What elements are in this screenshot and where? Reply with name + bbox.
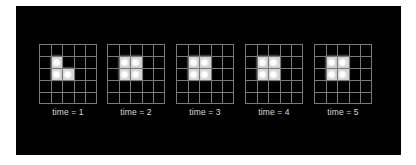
cell-grid [245, 44, 303, 104]
grid-line [245, 92, 303, 93]
time-label: time = 4 [235, 107, 313, 117]
live-cell [199, 68, 211, 80]
grid-line [164, 44, 165, 104]
grid-line [107, 68, 165, 69]
grid-line [280, 44, 281, 104]
live-cell [257, 56, 269, 68]
grid-line [291, 44, 292, 104]
time-label: time = 5 [304, 107, 382, 117]
cell-dot-icon [65, 72, 70, 77]
cell-dot-icon [202, 60, 207, 65]
figure-frame: time = 1 time = 2 time = 3 time = 4 time… [16, 6, 401, 155]
cell-dot-icon [340, 72, 345, 77]
cell-grid [39, 44, 97, 104]
grid-line [233, 44, 234, 104]
live-cell [51, 68, 63, 80]
live-cell [268, 68, 280, 80]
cell-dot-icon [260, 60, 265, 65]
grid-line [245, 56, 303, 57]
cell-dot-icon [133, 60, 138, 65]
grid-line [314, 68, 372, 69]
cell-dot-icon [260, 72, 265, 77]
grid-line [119, 44, 120, 104]
live-cell [119, 56, 131, 68]
grid-line [245, 103, 303, 104]
grid-line [360, 44, 361, 104]
cell-dot-icon [271, 60, 276, 65]
grid-line [176, 92, 234, 93]
cell-dot-icon [202, 72, 207, 77]
panel-time-3: time = 3 [176, 44, 234, 104]
grid-line [107, 44, 165, 45]
grid-line [51, 44, 52, 104]
cell-dot-icon [340, 60, 345, 65]
grid-line [39, 80, 97, 81]
grid-line [314, 103, 372, 104]
cell-dot-icon [329, 60, 334, 65]
panel-time-4: time = 4 [245, 44, 303, 104]
live-cell [119, 68, 131, 80]
grid-line [349, 44, 350, 104]
cell-dot-icon [54, 72, 59, 77]
grid-line [245, 44, 246, 104]
grid-line [176, 68, 234, 69]
grid-line [39, 103, 97, 104]
grid-line [39, 56, 97, 57]
grid-line [314, 80, 372, 81]
live-cell [326, 56, 338, 68]
cell-dot-icon [122, 60, 127, 65]
cell-dot-icon [271, 72, 276, 77]
grid-line [199, 44, 200, 104]
cell-grid [107, 44, 165, 104]
grid-line [176, 44, 234, 45]
grid-line [314, 44, 372, 45]
live-cell [199, 56, 211, 68]
cell-dot-icon [54, 60, 59, 65]
grid-line [211, 44, 212, 104]
grid-line [257, 44, 258, 104]
grid-line [107, 56, 165, 57]
grid-line [222, 44, 223, 104]
live-cell [326, 68, 338, 80]
live-cell [268, 56, 280, 68]
time-label: time = 3 [166, 107, 244, 117]
grid-line [176, 56, 234, 57]
grid-line [245, 80, 303, 81]
panel-time-2: time = 2 [107, 44, 165, 104]
live-cell [130, 68, 142, 80]
grid-line [130, 44, 131, 104]
grid-line [107, 80, 165, 81]
grid-line [107, 92, 165, 93]
live-cell [51, 56, 63, 68]
cell-dot-icon [329, 72, 334, 77]
grid-line [188, 44, 189, 104]
grid-line [302, 44, 303, 104]
grid-line [153, 44, 154, 104]
grid-line [176, 80, 234, 81]
live-cell [257, 68, 269, 80]
cell-dot-icon [191, 72, 196, 77]
time-label: time = 1 [29, 107, 107, 117]
grid-line [39, 44, 40, 104]
grid-line [268, 44, 269, 104]
panel-time-1: time = 1 [39, 44, 97, 104]
cell-dot-icon [191, 60, 196, 65]
live-cell [188, 68, 200, 80]
grid-line [326, 44, 327, 104]
cell-grid [176, 44, 234, 104]
grid-line [314, 92, 372, 93]
grid-line [176, 44, 177, 104]
grid-line [107, 44, 108, 104]
live-cell [130, 56, 142, 68]
live-cell [337, 68, 349, 80]
grid-line [39, 92, 97, 93]
panel-time-5: time = 5 [314, 44, 372, 104]
cell-dot-icon [133, 72, 138, 77]
live-cell [188, 56, 200, 68]
grid-line [371, 44, 372, 104]
cell-grid [314, 44, 372, 104]
grid-line [39, 44, 97, 45]
time-label: time = 2 [97, 107, 175, 117]
cell-dot-icon [122, 72, 127, 77]
grid-line [314, 44, 315, 104]
